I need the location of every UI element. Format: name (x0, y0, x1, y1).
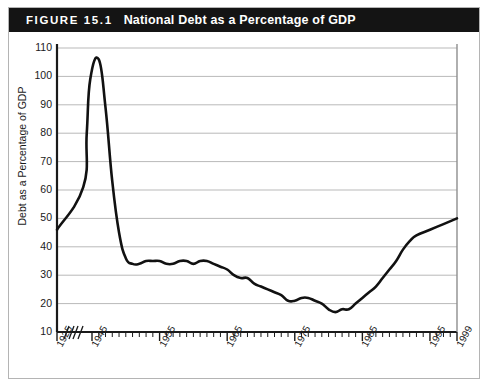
figure-title-bar: FIGURE 15.1 National Debt as a Percentag… (9, 8, 479, 32)
figure-title-text: National Debt as a Percentage of GDP (124, 13, 356, 27)
y-axis-tick-label: 60 (24, 184, 52, 195)
y-axis-tick-label: 80 (24, 127, 52, 138)
x-axis-ticks-group (57, 332, 457, 341)
chart-area: Debt as a Percentage of GDP 102030405060… (0, 32, 490, 388)
y-axis-tick-label: 50 (24, 212, 52, 223)
y-axis-tick-label: 20 (24, 298, 52, 309)
y-axis-tick-label: 30 (24, 269, 52, 280)
y-axis-tick-label: 90 (24, 99, 52, 110)
figure-number-label: FIGURE 15.1 (26, 14, 113, 26)
x-axis-tick-labels: 19251945195519651975198519951999 (0, 32, 490, 92)
y-axis-tick-label: 10 (24, 326, 52, 337)
debt-percentage-line (57, 57, 457, 312)
y-axis-tick-label: 70 (24, 156, 52, 167)
y-axis-tick-label: 40 (24, 241, 52, 252)
